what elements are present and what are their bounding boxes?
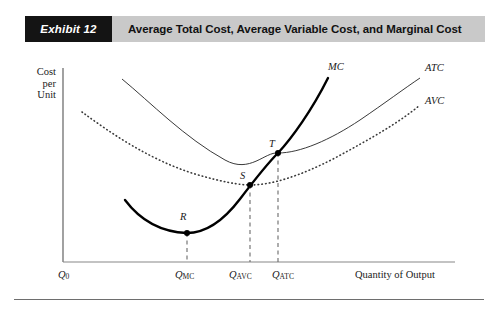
exhibit-header: Exhibit 12 Average Total Cost, Average V… xyxy=(25,16,485,42)
point-label-t: T xyxy=(269,138,275,149)
y-axis-label: Cost per Unit xyxy=(18,66,56,101)
x-tick-q0-sub: 0 xyxy=(66,272,70,281)
y-axis-label-line-1: Cost xyxy=(18,66,56,78)
point-label-s: S xyxy=(240,170,245,181)
exhibit-title-bar: Average Total Cost, Average Variable Cos… xyxy=(112,16,485,42)
x-tick-q0-base: Q xyxy=(58,269,66,280)
point-marker-s xyxy=(247,182,253,188)
x-tick-qmc: QMC xyxy=(175,269,194,281)
exhibit-tag-label: Exhibit 12 xyxy=(40,23,96,35)
exhibit-title: Average Total Cost, Average Variable Cos… xyxy=(128,23,462,35)
x-tick-qavc: QAVC xyxy=(229,269,252,281)
chart-svg xyxy=(0,48,499,298)
x-tick-qavc-base: Q xyxy=(229,269,237,280)
atc-curve-label: ATC xyxy=(425,62,444,73)
atc-curve xyxy=(122,78,420,165)
x-tick-qmc-sub: MC xyxy=(183,272,195,281)
cost-curves-chart: Cost per Unit MC ATC AVC R S T Q0 QMC QA… xyxy=(0,48,499,298)
x-tick-qatc: QATC xyxy=(272,269,294,281)
y-axis-label-line-3: Unit xyxy=(18,89,56,101)
avc-curve xyxy=(82,105,420,185)
x-axis-title: Quantity of Output xyxy=(355,269,435,280)
mc-curve xyxy=(125,78,328,233)
bottom-divider xyxy=(14,299,484,300)
point-marker-t xyxy=(275,150,281,156)
x-tick-qavc-sub: AVC xyxy=(237,272,252,281)
mc-curve-label: MC xyxy=(328,61,344,72)
avc-curve-label: AVC xyxy=(425,95,444,106)
x-tick-qatc-sub: ATC xyxy=(280,272,294,281)
x-tick-qatc-base: Q xyxy=(272,269,280,280)
point-label-r: R xyxy=(180,211,186,222)
x-tick-q0: Q0 xyxy=(58,269,69,281)
point-marker-r xyxy=(184,230,190,236)
y-axis-label-line-2: per xyxy=(18,78,56,90)
x-tick-qmc-base: Q xyxy=(175,269,183,280)
exhibit-number-tag: Exhibit 12 xyxy=(25,16,112,42)
